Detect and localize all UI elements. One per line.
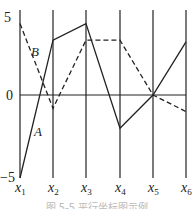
- figure-caption: 图 5-5 平行坐标图示例: [0, 199, 194, 209]
- axis-label-x2: x2: [47, 180, 59, 197]
- axis-label-x1: x1: [14, 180, 26, 197]
- ytick-zero: 0: [6, 88, 13, 103]
- series-a-label: A: [33, 124, 42, 139]
- series-b-line: [20, 24, 186, 112]
- axis-labels: x1x2x3x4x5x6: [14, 180, 192, 197]
- series-a-line: [20, 24, 186, 178]
- ytick-top: 5: [4, 10, 11, 25]
- ytick-bottom: −5: [0, 170, 15, 185]
- vertical-axes: [20, 10, 186, 178]
- axis-label-x3: x3: [80, 180, 92, 197]
- parallel-coordinates-chart: 5 0 −5 B A x1x2x3x4x5x6: [0, 0, 194, 209]
- axis-label-x5: x5: [147, 180, 159, 197]
- series-b-label: B: [31, 44, 39, 59]
- axis-label-x4: x4: [114, 180, 126, 197]
- axis-label-x6: x6: [180, 180, 192, 197]
